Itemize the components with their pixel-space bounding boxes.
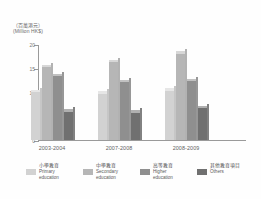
bar bbox=[165, 86, 176, 140]
legend-color-swatch bbox=[197, 169, 207, 175]
bar-face bbox=[187, 79, 196, 140]
bar bbox=[53, 72, 64, 140]
bar bbox=[120, 78, 131, 140]
bar bbox=[31, 88, 42, 140]
legend-label-english-line2: education bbox=[153, 175, 173, 181]
bar-side-bevel bbox=[207, 104, 209, 140]
legend-color-swatch bbox=[26, 169, 36, 175]
bar bbox=[131, 108, 142, 140]
bar-top-bevel bbox=[198, 106, 207, 109]
unit-caption-english: (Million HK$) bbox=[13, 28, 44, 34]
bar-top-bevel bbox=[64, 109, 73, 112]
bar-face bbox=[120, 80, 129, 140]
bar bbox=[42, 63, 53, 140]
bar-top-bevel bbox=[109, 60, 118, 63]
legend-label: 小學教育Primaryeducation bbox=[39, 163, 59, 181]
legend-color-swatch bbox=[83, 169, 93, 175]
legend-label: 其他教育項目Others bbox=[210, 163, 240, 175]
bar-face bbox=[131, 110, 140, 140]
bar bbox=[98, 89, 109, 140]
bar-face bbox=[98, 91, 107, 140]
education-expenditure-bar-chart: （百萬港元） (Million HK$) 05101520 2003-20042… bbox=[0, 0, 261, 199]
x-axis-line bbox=[38, 140, 246, 141]
bar-top-bevel bbox=[176, 51, 185, 54]
bar-top-bevel bbox=[120, 80, 129, 83]
chart-legend: 小學教育Primaryeducation中學教育Secondaryeducati… bbox=[26, 163, 254, 181]
bar-face bbox=[176, 51, 185, 140]
bar-group bbox=[165, 45, 209, 140]
legend-label: 中學教育Secondaryeducation bbox=[96, 163, 118, 181]
bar-face bbox=[42, 65, 51, 140]
x-axis-category-label: 2007-2008 bbox=[89, 145, 149, 151]
x-axis-category-label: 2003-2004 bbox=[22, 145, 82, 151]
bar bbox=[176, 49, 187, 140]
legend-item[interactable]: 中學教育Secondaryeducation bbox=[83, 163, 140, 181]
legend-label: 高等教育Highereducation bbox=[153, 163, 173, 181]
bar-top-bevel bbox=[98, 91, 107, 94]
bar-top-bevel bbox=[187, 79, 196, 82]
bar-side-bevel bbox=[73, 107, 75, 140]
bar-top-bevel bbox=[31, 90, 40, 93]
legend-label-english-line2: education bbox=[96, 175, 118, 181]
bar-top-bevel bbox=[165, 88, 174, 91]
bar-face bbox=[109, 60, 118, 140]
bar-face bbox=[31, 90, 40, 140]
bar bbox=[109, 58, 120, 140]
bar-top-bevel bbox=[42, 65, 51, 68]
legend-label-english-line2: education bbox=[39, 175, 59, 181]
bar-group bbox=[98, 45, 142, 140]
bars-layer bbox=[39, 45, 246, 140]
bar bbox=[64, 107, 75, 140]
legend-item[interactable]: 其他教育項目Others bbox=[197, 163, 254, 181]
y-axis-unit-caption: （百萬港元） (Million HK$) bbox=[13, 22, 44, 35]
bar-face bbox=[53, 74, 62, 140]
bar-top-bevel bbox=[53, 74, 62, 77]
bar-face bbox=[64, 109, 73, 140]
bar bbox=[187, 77, 198, 140]
bar bbox=[198, 104, 209, 140]
legend-color-swatch bbox=[140, 169, 150, 175]
bar-face bbox=[198, 106, 207, 140]
bar-face bbox=[165, 88, 174, 140]
legend-item[interactable]: 小學教育Primaryeducation bbox=[26, 163, 83, 181]
y-axis-tick: 0 bbox=[38, 141, 43, 142]
x-axis-category-label: 2008-2009 bbox=[156, 145, 216, 151]
bar-top-bevel bbox=[131, 110, 140, 113]
legend-item[interactable]: 高等教育Highereducation bbox=[140, 163, 197, 181]
plot-area: 05101520 bbox=[38, 45, 246, 141]
legend-label-english-line1: Others bbox=[210, 169, 240, 175]
bar-side-bevel bbox=[140, 108, 142, 140]
bar-group bbox=[31, 45, 75, 140]
